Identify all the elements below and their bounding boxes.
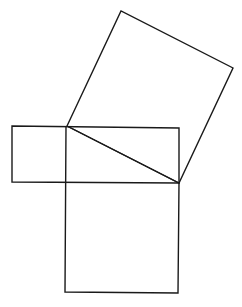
diagram-svg [0, 0, 242, 307]
lower-square [65, 126, 179, 293]
tilted-square [67, 11, 233, 183]
hypotenuse-line [67, 126, 179, 183]
diagram-canvas [0, 0, 242, 307]
horizontal-rectangle [12, 126, 179, 183]
